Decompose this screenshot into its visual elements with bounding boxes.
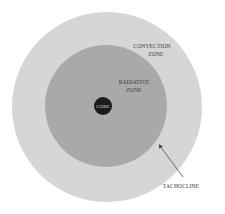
core-label: CORE [96, 104, 109, 109]
sun-structure-diagram: CORE CONVECTION ZONE RADIATIVE ZONE TACH… [0, 0, 225, 214]
radiative-zone-label-line1: RADIATIVE [119, 79, 150, 85]
convection-zone-label-line1: CONVECTION [133, 43, 170, 49]
convection-zone-label-line2: ZONE [148, 51, 164, 57]
radiative-zone-label-line2: ZONE [126, 87, 142, 93]
tachocline-label: TACHOCLINE [163, 183, 200, 189]
